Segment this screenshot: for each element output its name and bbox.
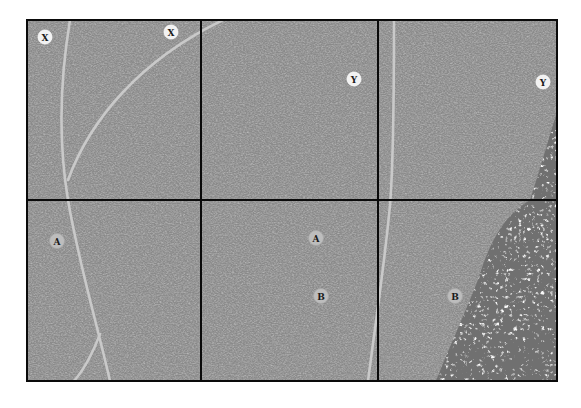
marker-label: A bbox=[312, 234, 321, 244]
marker-label: B bbox=[317, 292, 325, 302]
marker-a-bottom-left: A bbox=[50, 234, 65, 249]
marker-label: A bbox=[53, 237, 62, 247]
six-panel-figure: XXYYAABB bbox=[0, 0, 581, 408]
marker-b-bottom-right: B bbox=[448, 289, 463, 304]
marker-label: B bbox=[451, 292, 459, 302]
marker-x-top-left: X bbox=[38, 30, 52, 44]
marker-a-bottom-middle: A bbox=[309, 231, 324, 246]
figure-canvas: XXYYAABB bbox=[0, 0, 581, 408]
marker-x-top-left: X bbox=[164, 25, 178, 39]
marker-label: X bbox=[168, 28, 175, 38]
marker-label: Y bbox=[350, 75, 358, 85]
marker-y-top-middle: Y bbox=[347, 72, 361, 86]
marker-label: X bbox=[42, 33, 49, 43]
marker-b-bottom-middle: B bbox=[314, 289, 329, 304]
marker-y-top-right: Y bbox=[536, 75, 550, 89]
marker-label: Y bbox=[539, 78, 547, 88]
